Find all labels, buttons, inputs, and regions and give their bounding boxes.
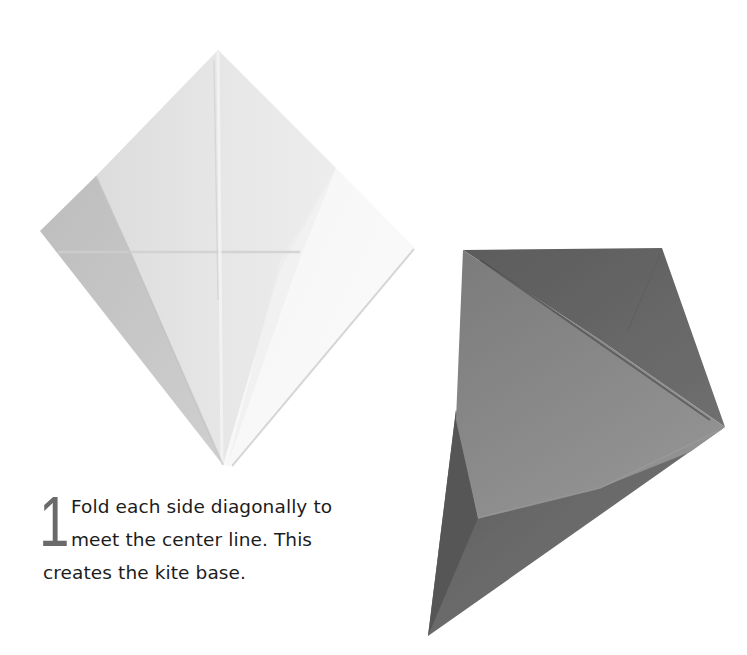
step-text: Fold each side diagonally to meet the ce… [43, 496, 332, 583]
step-instruction: 1 Fold each side diagonally to meet the … [43, 490, 383, 589]
step-number: 1 [39, 494, 59, 554]
instruction-page: 1 Fold each side diagonally to meet the … [0, 0, 747, 655]
kite-base-front-figure [40, 50, 415, 466]
kite-base-side-figure [428, 248, 725, 636]
